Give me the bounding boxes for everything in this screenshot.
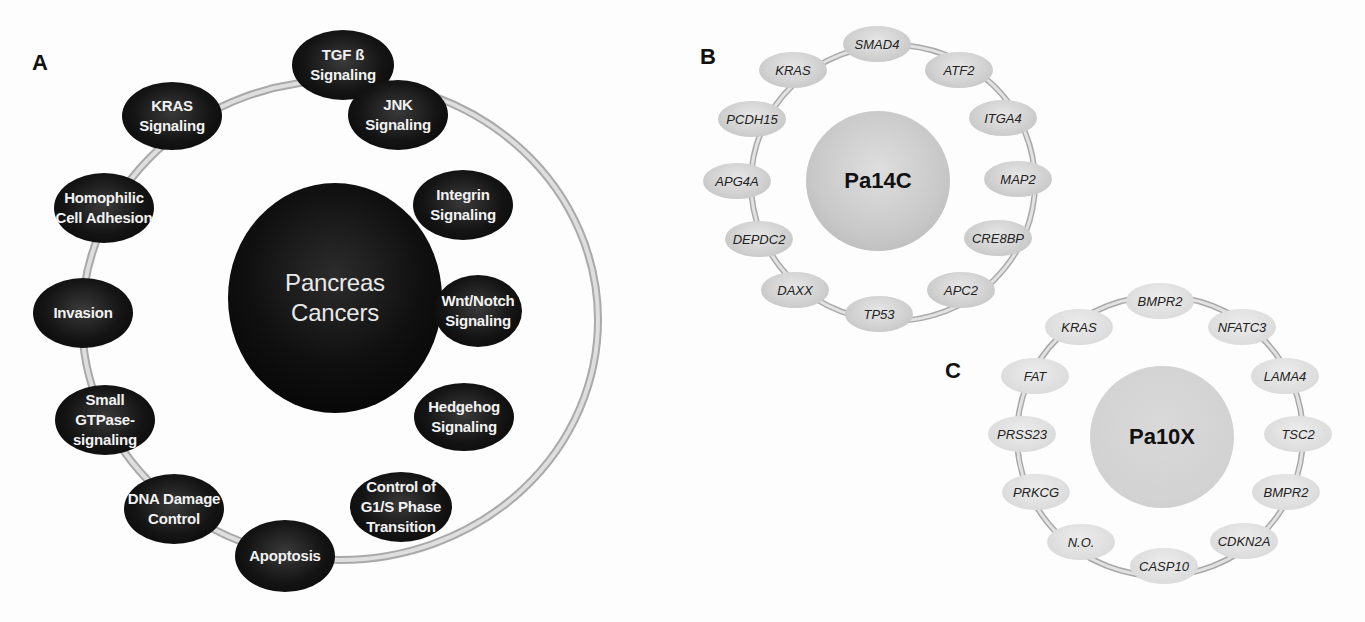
gene-label: APG4A — [715, 174, 758, 189]
gene-node-bmpr2-lower: BMPR2 — [1252, 474, 1320, 510]
pathway-node-g1s-transition: Control of G1/S Phase Transition — [350, 472, 452, 542]
gene-label: KRAS — [1061, 320, 1096, 335]
gene-label: DEPDC2 — [733, 232, 786, 247]
gene-label: ATF2 — [944, 63, 975, 78]
gene-node-no: N.O. — [1047, 524, 1115, 560]
gene-node-prkcg: PRKCG — [1002, 474, 1070, 510]
node-label: Homophilic Cell Adhesion — [56, 188, 153, 228]
pathway-node-small-gtpase: Small GTPase- signaling — [55, 385, 155, 455]
gene-node-fat: FAT — [1001, 358, 1069, 394]
pathway-node-apoptosis: Apoptosis — [235, 520, 335, 592]
gene-label: NFATC3 — [1218, 320, 1267, 335]
pathway-node-wnt-notch: Wnt/Notch Signaling — [434, 275, 522, 347]
gene-node-lama4: LAMA4 — [1251, 358, 1319, 394]
gene-label: PRSS23 — [997, 427, 1047, 442]
panel-label-c: C — [945, 358, 961, 384]
gene-node-apg4a: APG4A — [703, 163, 771, 199]
pathway-node-dna-damage: DNA Damage Control — [124, 474, 224, 544]
gene-node-kras: KRAS — [1045, 309, 1113, 345]
panel-label-b: B — [700, 44, 716, 70]
gene-node-kras: KRAS — [759, 52, 827, 88]
node-label: KRAS Signaling — [139, 96, 205, 136]
gene-node-map2: MAP2 — [984, 161, 1052, 197]
hub-label: Pa10X — [1129, 424, 1195, 450]
gene-label: ITGA4 — [984, 111, 1022, 126]
gene-label: MAP2 — [1000, 172, 1035, 187]
gene-node-tp53: TP53 — [845, 296, 913, 332]
node-label: Wnt/Notch Signaling — [441, 291, 514, 331]
pathway-node-homophilic-adhesion: Homophilic Cell Adhesion — [54, 173, 154, 243]
gene-label: PCDH15 — [726, 112, 777, 127]
gene-label: DAXX — [777, 283, 812, 298]
pathway-node-hedgehog: Hedgehog Signaling — [414, 383, 514, 451]
hub-pa10x: Pa10X — [1090, 366, 1234, 508]
node-label: DNA Damage Control — [128, 489, 220, 529]
gene-node-tsc2: TSC2 — [1264, 416, 1332, 452]
gene-label: LAMA4 — [1264, 369, 1307, 384]
gene-node-atf2: ATF2 — [925, 52, 993, 88]
gene-node-nfatc3: NFATC3 — [1208, 309, 1276, 345]
pathway-node-kras: KRAS Signaling — [122, 82, 222, 150]
node-label: Hedgehog Signaling — [428, 397, 500, 437]
gene-label: N.O. — [1068, 535, 1095, 550]
gene-node-bmpr2-top: BMPR2 — [1126, 283, 1194, 319]
gene-label: TP53 — [863, 307, 894, 322]
hub-label: Pa14C — [844, 168, 911, 194]
gene-node-smad4: SMAD4 — [843, 26, 911, 62]
node-label: JNK Signaling — [365, 95, 431, 135]
pathway-node-jnk: JNK Signaling — [348, 80, 448, 150]
node-label: Integrin Signaling — [430, 185, 496, 225]
gene-label: PRKCG — [1013, 485, 1059, 500]
gene-node-depdc2: DEPDC2 — [725, 221, 793, 257]
hub-label: Pancreas Cancers — [285, 268, 385, 328]
gene-label: CDKN2A — [1218, 534, 1271, 549]
gene-label: CRE8BP — [972, 231, 1024, 246]
gene-node-itga4: ITGA4 — [969, 100, 1037, 136]
gene-node-apc2: APC2 — [927, 272, 995, 308]
node-label: TGF ß Signaling — [310, 45, 376, 85]
gene-node-cdkn2a: CDKN2A — [1210, 523, 1278, 559]
gene-node-daxx: DAXX — [761, 272, 829, 308]
gene-node-pcdh15: PCDH15 — [718, 101, 786, 137]
gene-label: FAT — [1024, 369, 1047, 384]
gene-node-cre8bp: CRE8BP — [964, 220, 1032, 256]
gene-label: KRAS — [775, 63, 810, 78]
panel-label-a: A — [32, 50, 48, 76]
gene-label: BMPR2 — [1138, 294, 1183, 309]
node-label: Apoptosis — [249, 546, 321, 566]
node-label: Small GTPase- signaling — [73, 390, 137, 450]
pathway-node-integrin: Integrin Signaling — [413, 170, 513, 240]
gene-label: TSC2 — [1281, 427, 1314, 442]
pathway-node-invasion: Invasion — [33, 278, 133, 348]
node-label: Control of G1/S Phase Transition — [361, 477, 442, 537]
gene-node-casp10: CASP10 — [1130, 548, 1198, 584]
gene-label: APC2 — [944, 283, 978, 298]
gene-node-prss23: PRSS23 — [988, 416, 1056, 452]
node-label: Invasion — [53, 303, 112, 323]
gene-label: SMAD4 — [855, 37, 900, 52]
hub-pancreas-cancers: Pancreas Cancers — [228, 183, 442, 413]
hub-pa14c: Pa14C — [806, 111, 950, 251]
gene-label: BMPR2 — [1264, 485, 1309, 500]
gene-label: CASP10 — [1139, 559, 1189, 574]
